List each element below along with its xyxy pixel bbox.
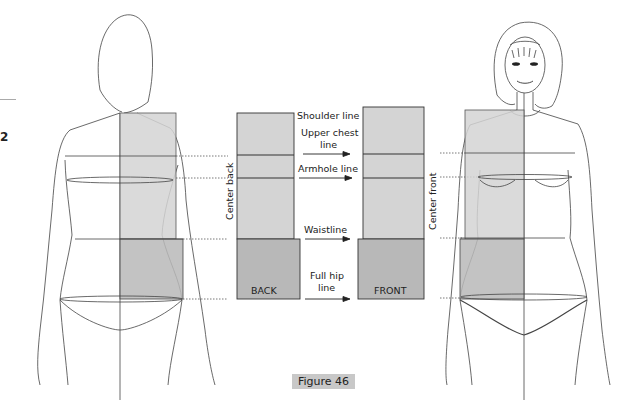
full-hip-label-2: line [318,282,335,293]
front-label: FRONT [374,285,407,296]
bodice-diagram: BACK Center back Shoulder line Upper che… [0,0,638,405]
back-label: BACK [251,285,277,296]
full-hip-label-1: Full hip [310,270,344,281]
back-upper-overlay [120,113,176,239]
back-lower-overlay [120,239,183,299]
front-lower-overlay [460,239,524,299]
back-block [237,113,300,299]
upper-chest-label-1: Upper chest [301,127,359,138]
front-block [358,107,424,299]
face-eyes [512,62,538,66]
shoulder-line-label: Shoulder line [297,110,360,121]
center-front-label: Center front [427,172,438,230]
upper-chest-label-2: line [320,139,337,150]
armhole-line-label: Armhole line [298,163,358,174]
center-back-label: Center back [224,162,235,220]
figure-caption: Figure 46 [292,374,355,389]
waistline-label: Waistline [304,224,347,235]
